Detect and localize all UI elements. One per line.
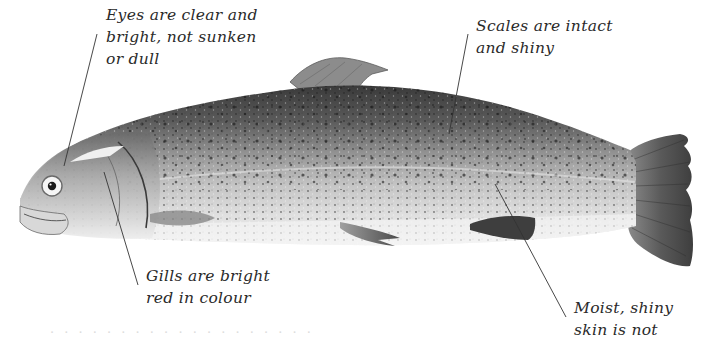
faint-bleed-through-text: · · · · · · · · · · · · · · · · · · ·: [50, 325, 314, 340]
label-line: Moist, shiny: [574, 297, 673, 319]
label-line: and shiny: [476, 37, 613, 59]
label-skin: Moist, shiny skin is not: [574, 297, 673, 341]
fish-eye: [42, 176, 62, 196]
label-line: Eyes are clear and: [106, 4, 258, 26]
label-line: or dull: [106, 48, 258, 70]
label-eyes: Eyes are clear and bright, not sunken or…: [106, 4, 258, 70]
label-line: bright, not sunken: [106, 26, 258, 48]
dorsal-fin: [290, 58, 388, 90]
label-scales: Scales are intact and shiny: [476, 15, 613, 59]
label-line: skin is not: [574, 319, 673, 341]
fish-freshness-diagram: Eyes are clear and bright, not sunken or…: [0, 0, 708, 341]
label-line: red in colour: [146, 287, 270, 309]
label-gills: Gills are bright red in colour: [146, 265, 270, 309]
label-line: Scales are intact: [476, 15, 613, 37]
label-line: Gills are bright: [146, 265, 270, 287]
